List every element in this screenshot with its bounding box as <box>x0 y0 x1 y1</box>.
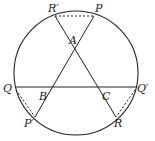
label-P: P <box>95 3 102 14</box>
label-R-prime: R′ <box>48 3 59 14</box>
geometry-diagram: R′ P A Q Q′ B C P′ R <box>0 0 155 141</box>
label-P-prime: P′ <box>24 118 34 129</box>
label-Q-prime: Q′ <box>137 83 149 94</box>
label-Q: Q <box>3 83 12 94</box>
dashed-QprimeR <box>116 90 135 117</box>
dashed-QPprime <box>16 90 35 117</box>
label-B: B <box>39 91 47 102</box>
label-C: C <box>102 91 110 102</box>
label-R: R <box>114 118 122 129</box>
label-A: A <box>69 35 77 46</box>
